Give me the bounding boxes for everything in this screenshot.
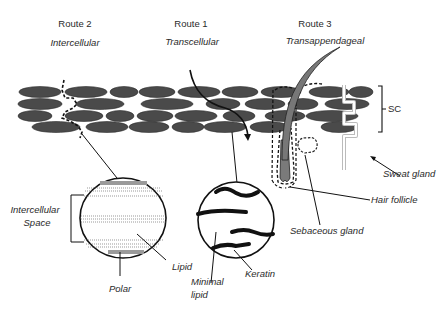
svg-text:Sebaceous gland: Sebaceous gland bbox=[290, 225, 364, 236]
hair-follicle-label: Hair follicle bbox=[290, 187, 417, 205]
svg-text:SC: SC bbox=[388, 103, 401, 114]
svg-text:Hair follicle: Hair follicle bbox=[371, 194, 417, 205]
svg-text:Route 3: Route 3 bbox=[298, 18, 331, 29]
svg-text:Intercellular: Intercellular bbox=[10, 204, 60, 215]
svg-text:Keratin: Keratin bbox=[245, 268, 275, 279]
sc-bracket: SC bbox=[378, 86, 401, 132]
sebaceous-gland-shape bbox=[298, 138, 317, 153]
svg-text:lipid: lipid bbox=[191, 289, 209, 300]
svg-text:Route 2: Route 2 bbox=[58, 18, 91, 29]
svg-text:Route 1: Route 1 bbox=[174, 18, 207, 29]
intercellular-space-label: Intercellular Space bbox=[10, 195, 84, 242]
transcellular-zoom-circle bbox=[198, 132, 274, 258]
intercellular-zoom-circle bbox=[80, 134, 166, 258]
skin-permeation-diagram: Route 2 Intercellular Route 1 Transcellu… bbox=[0, 0, 446, 312]
sebaceous-gland-label: Sebaceous gland bbox=[290, 155, 364, 236]
route-2-heading: Route 2 Intercellular bbox=[50, 18, 100, 48]
route-3-heading: Route 3 Transappendageal bbox=[286, 18, 365, 46]
svg-text:Sweat gland: Sweat gland bbox=[383, 168, 436, 179]
sweat-gland-label: Sweat gland bbox=[370, 156, 436, 179]
svg-text:Transappendageal: Transappendageal bbox=[286, 35, 365, 46]
svg-text:Intercellular: Intercellular bbox=[50, 37, 100, 48]
svg-text:Minimal: Minimal bbox=[191, 276, 225, 287]
svg-text:Polar: Polar bbox=[109, 283, 132, 294]
route-1-heading: Route 1 Transcellular bbox=[165, 18, 220, 47]
svg-text:Space: Space bbox=[24, 217, 51, 228]
svg-text:Lipid: Lipid bbox=[172, 261, 193, 272]
svg-text:Transcellular: Transcellular bbox=[165, 36, 220, 47]
